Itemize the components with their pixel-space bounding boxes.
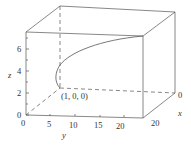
hidden-edge [26,88,60,115]
3d-curve-plot: 0 2 4 6 z 0 5 10 15 20 y 0 20 x (1, 0, 0… [0,0,191,149]
x-axis-label: x [177,108,182,118]
box-edge [143,12,175,36]
z-tick-4: 4 [17,66,22,76]
x-tick-20: 20 [151,118,160,128]
y-axis-label: y [61,130,66,140]
box-edge [60,6,175,12]
point-annotation: (1, 0, 0) [61,91,88,101]
box-edge [143,93,175,118]
y-tick-20: 20 [116,121,125,131]
box-edge [26,115,143,118]
box-edge [26,32,143,36]
z-tick-6: 6 [17,44,21,54]
z-tick-2: 2 [17,88,21,98]
box-edge [26,6,60,32]
y-tick-10: 10 [69,120,78,130]
y-tick-5: 5 [47,119,51,129]
x-tick-0: 0 [178,90,182,100]
z-axis-label: z [7,70,12,80]
y-tick-0: 0 [21,118,25,128]
space-curve [56,36,143,88]
y-tick-15: 15 [94,120,103,130]
